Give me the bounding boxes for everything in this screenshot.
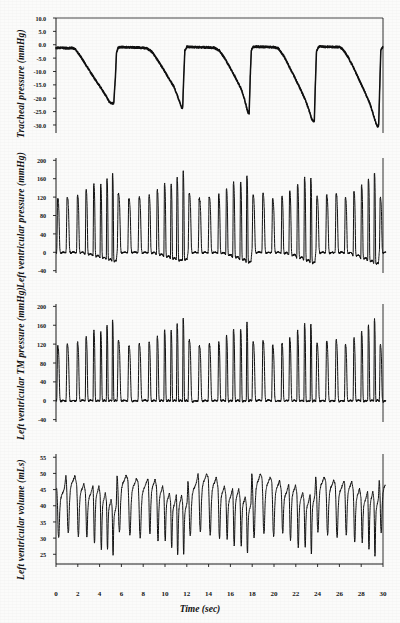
- panel-tracheal-pressure-trace: [0, 0, 400, 148]
- panel-lv-pressure: Left ventricular pressure (mmHg) 2001601…: [0, 148, 400, 290]
- panel-lv-volume: Left ventricular volume (mLs) 5550454035…: [0, 442, 400, 582]
- x-tick-label: 20: [262, 590, 286, 598]
- panel-tracheal-pressure: Tracheal pressure (mmHg) 10.05.00.0-5.0-…: [0, 0, 400, 148]
- x-tick-label: 2: [66, 590, 90, 598]
- panel-lv-volume-trace: [0, 442, 400, 582]
- x-tick-label: 18: [240, 590, 264, 598]
- x-tick-label: 24: [306, 590, 330, 598]
- panel-lv-tm-pressure-trace: [0, 290, 400, 442]
- x-tick-label: 30: [371, 590, 395, 598]
- x-tick-label: 26: [327, 590, 351, 598]
- x-axis-label: Time (sec): [0, 604, 400, 614]
- x-tick-label: 4: [88, 590, 112, 598]
- figure-root: Tracheal pressure (mmHg) 10.05.00.0-5.0-…: [0, 0, 400, 623]
- x-tick-label: 12: [175, 590, 199, 598]
- x-tick-label: 14: [197, 590, 221, 598]
- x-tick-label: 0: [44, 590, 68, 598]
- x-tick-label: 22: [284, 590, 308, 598]
- x-tick-label: 6: [109, 590, 133, 598]
- panel-lv-tm-pressure: Left ventricular TM pressure (mmHg) 2001…: [0, 290, 400, 442]
- x-tick-label: 28: [349, 590, 373, 598]
- x-tick-label: 10: [153, 590, 177, 598]
- x-tick-label: 8: [131, 590, 155, 598]
- panel-lv-pressure-trace: [0, 148, 400, 290]
- x-tick-label: 16: [218, 590, 242, 598]
